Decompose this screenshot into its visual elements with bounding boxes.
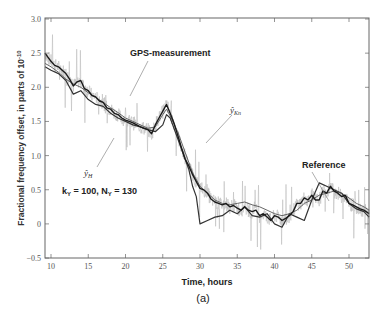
annotation-y-h: ŷH [83, 168, 93, 179]
y-axis-label: Fractional frequency offset, in parts of… [16, 50, 26, 226]
annotation-reference: Reference [302, 160, 346, 170]
y-tick-label: 0.5 [31, 186, 41, 195]
y-tick-label: 2.5 [31, 49, 41, 58]
y-tick-label: 1.5 [31, 117, 41, 126]
annotation-parameters: kY = 100, NY = 130 [62, 186, 137, 197]
y-tick-label: 1.0 [31, 152, 41, 161]
x-axis-label: Time, hours [182, 277, 233, 287]
x-tick-label: 40 [271, 262, 279, 271]
chart: 101520253035404550−0.500.51.01.52.02.53.… [0, 0, 386, 320]
x-tick-label: 35 [233, 262, 241, 271]
y-tick-label: 3.0 [31, 15, 41, 24]
x-tick-label: 45 [308, 262, 316, 271]
y-tick-label: 0 [37, 220, 41, 229]
y-tick-label: −0.5 [26, 254, 41, 263]
annotations: GPS-measurement ŷKn ŷH Reference kY = 10… [62, 48, 346, 201]
x-tick-label: 25 [159, 262, 167, 271]
svg-text:Fractional frequency offset, i: Fractional frequency offset, in parts of… [16, 50, 26, 226]
x-tick-label: 15 [84, 262, 92, 271]
annotation-y-kn: ŷKn [229, 105, 241, 116]
x-tick-label: 10 [47, 262, 55, 271]
x-tick-label: 50 [345, 262, 353, 271]
x-tick-label: 30 [196, 262, 204, 271]
annotation-gps-measurement: GPS-measurement [130, 48, 211, 58]
figure-caption: (a) [196, 292, 209, 304]
x-tick-label: 20 [122, 262, 130, 271]
y-tick-label: 2.0 [31, 83, 41, 92]
